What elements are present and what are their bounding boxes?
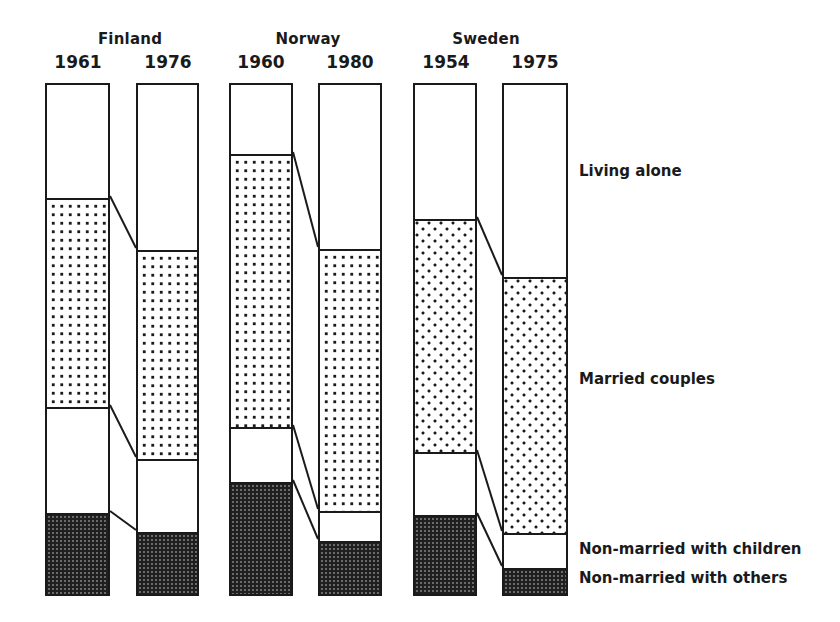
legend-non-married-children: Non-married with children bbox=[579, 540, 802, 558]
segment-non-married-children bbox=[47, 407, 108, 513]
segment-non-married-others bbox=[415, 515, 475, 594]
segment-non-married-children bbox=[504, 533, 566, 568]
year-label: 1954 bbox=[414, 52, 478, 72]
segment-non-married-others bbox=[231, 482, 291, 594]
segment-living-alone bbox=[231, 85, 291, 154]
year-label: 1980 bbox=[318, 52, 382, 72]
segment-married-couples bbox=[504, 277, 566, 533]
bar-sweden-1975 bbox=[502, 83, 568, 596]
segment-non-married-others bbox=[320, 541, 380, 594]
segment-married-couples bbox=[320, 249, 380, 511]
segment-living-alone bbox=[138, 85, 197, 250]
bar-finland-1961 bbox=[45, 83, 110, 596]
year-label: 1975 bbox=[503, 52, 567, 72]
country-label-finland: Finland bbox=[90, 30, 170, 48]
segment-non-married-others bbox=[138, 532, 197, 594]
country-label-norway: Norway bbox=[268, 30, 348, 48]
legend-non-married-others: Non-married with others bbox=[579, 569, 787, 587]
segment-living-alone bbox=[504, 85, 566, 277]
bar-finland-1976 bbox=[136, 83, 199, 596]
segment-married-couples bbox=[138, 250, 197, 459]
segment-non-married-others bbox=[47, 513, 108, 594]
segment-living-alone bbox=[320, 85, 380, 249]
segment-married-couples bbox=[47, 198, 108, 407]
segment-married-couples bbox=[231, 154, 291, 427]
year-label: 1960 bbox=[229, 52, 293, 72]
segment-non-married-children bbox=[415, 452, 475, 515]
year-label: 1976 bbox=[136, 52, 200, 72]
bar-norway-1960 bbox=[229, 83, 293, 596]
segment-living-alone bbox=[47, 85, 108, 198]
segment-married-couples bbox=[415, 219, 475, 452]
legend-living-alone: Living alone bbox=[579, 162, 682, 180]
legend-married-couples: Married couples bbox=[579, 370, 715, 388]
segment-non-married-others bbox=[504, 568, 566, 594]
year-label: 1961 bbox=[46, 52, 110, 72]
country-label-sweden: Sweden bbox=[446, 30, 526, 48]
segment-living-alone bbox=[415, 85, 475, 219]
bar-norway-1980 bbox=[318, 83, 382, 596]
bar-sweden-1954 bbox=[413, 83, 477, 596]
segment-non-married-children bbox=[138, 459, 197, 532]
segment-non-married-children bbox=[320, 511, 380, 541]
segment-non-married-children bbox=[231, 427, 291, 482]
